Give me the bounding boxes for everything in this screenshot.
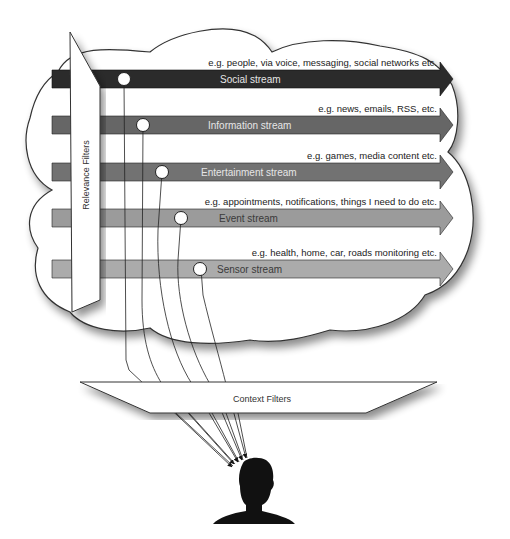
stream-label: Event stream [219,213,278,224]
stream-node-event [175,212,188,225]
stream-label: Entertainment stream [201,167,297,178]
stream-example: e.g. appointments, notifications, things… [205,196,437,207]
stream-node-entertainment [156,166,169,179]
relevance-filter-label: Relevance Filters [81,140,91,210]
stream-example: e.g. health, home, car, roads monitoring… [252,247,437,258]
stream-node-information [137,119,150,132]
stream-label: Information stream [208,120,291,131]
stream-example: e.g. games, media content etc. [307,150,437,161]
information-streams-diagram: Social stream e.g. people, via voice, me… [0,0,510,539]
stream-label: Social stream [220,74,281,85]
stream-example: e.g. people, via voice, messaging, socia… [208,57,437,68]
context-filter: Context Filters [80,382,437,413]
context-filter-label: Context Filters [233,394,292,404]
stream-label: Sensor stream [217,264,282,275]
person-silhouette-icon [213,458,295,524]
stream-example: e.g. news, emails, RSS, etc. [318,103,437,114]
stream-node-social [118,73,131,86]
stream-node-sensor [194,263,207,276]
